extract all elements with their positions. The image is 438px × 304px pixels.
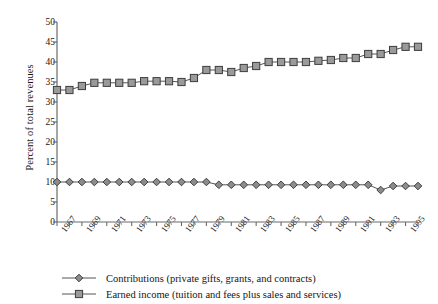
legend-label-contributions: Contributions (private gifts, grants, an…: [106, 273, 316, 284]
chart-container: Percent of total revenues 05101520253035…: [0, 0, 438, 304]
legend-label-earned-income: Earned income (tuition and fees plus sal…: [106, 289, 341, 300]
legend-marker-diamond-icon: [62, 272, 96, 284]
legend-item-contributions: Contributions (private gifts, grants, an…: [62, 272, 316, 284]
legend-marker-square-icon: [62, 288, 96, 300]
plot-area: [0, 0, 438, 304]
legend-item-earned-income: Earned income (tuition and fees plus sal…: [62, 288, 341, 300]
